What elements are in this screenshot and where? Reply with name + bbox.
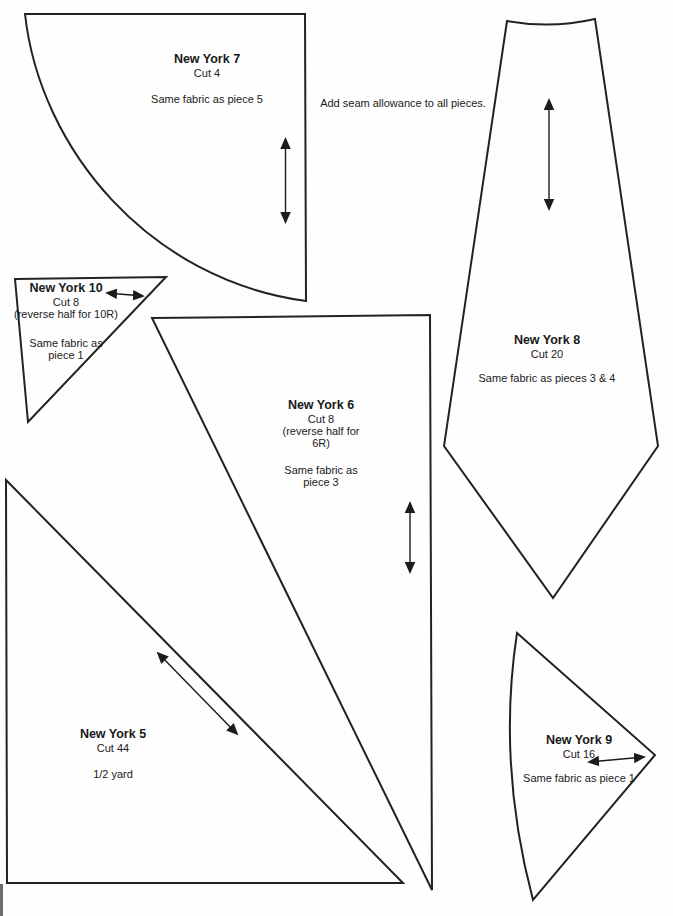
piece-ny10-cut: Cut 8 (0, 296, 146, 308)
seam-allowance-note: Add seam allowance to all pieces. (303, 97, 503, 109)
piece-ny5-outline (6, 480, 403, 883)
piece-ny9-fabric: Same fabric as piece 1 (489, 772, 669, 784)
piece-ny10-title: New York 10 (0, 281, 146, 296)
piece-ny8-fabric: Same fabric as pieces 3 & 4 (447, 372, 647, 384)
piece-ny6-fabric-line2: piece 3 (241, 476, 401, 488)
piece-ny7-fabric: Same fabric as piece 5 (107, 93, 307, 106)
piece-ny5-label: New York 5 Cut 44 1/2 yard (33, 727, 193, 780)
pattern-page: Add seam allowance to all pieces. New Yo… (0, 0, 673, 916)
piece-ny10-label: New York 10 Cut 8 (reverse half for 10R)… (0, 281, 146, 361)
piece-ny6-reverse-line1: (reverse half for (241, 425, 401, 437)
piece-ny6-title: New York 6 (241, 398, 401, 413)
piece-ny10-fabric-line2: piece 1 (0, 349, 146, 361)
piece-ny5-cut: Cut 44 (33, 742, 193, 754)
piece-ny5-yardage: 1/2 yard (33, 768, 193, 780)
piece-ny9-label: New York 9 Cut 16 Same fabric as piece 1 (489, 733, 669, 784)
piece-ny7-cut: Cut 4 (107, 67, 307, 80)
scan-edge-artifact (0, 884, 3, 916)
piece-ny6-reverse-line2: 6R) (241, 437, 401, 449)
piece-ny6-label: New York 6 Cut 8 (reverse half for 6R) S… (241, 398, 401, 488)
piece-ny10-reverse: (reverse half for 10R) (0, 308, 146, 320)
piece-ny6-fabric-line1: Same fabric as (241, 464, 401, 476)
piece-ny9-title: New York 9 (489, 733, 669, 748)
piece-ny7-title: New York 7 (107, 52, 307, 67)
piece-ny9-cut: Cut 16 (489, 748, 669, 760)
grainline-arrow-ny5 (158, 653, 237, 734)
piece-ny7-label: New York 7 Cut 4 Same fabric as piece 5 (107, 52, 307, 106)
piece-ny8-cut: Cut 20 (447, 348, 647, 360)
piece-ny6-cut: Cut 8 (241, 413, 401, 425)
piece-ny5-title: New York 5 (33, 727, 193, 742)
piece-ny8-title: New York 8 (447, 333, 647, 348)
piece-ny10-fabric-line1: Same fabric as (0, 337, 146, 349)
piece-ny8-label: New York 8 Cut 20 Same fabric as pieces … (447, 333, 647, 384)
